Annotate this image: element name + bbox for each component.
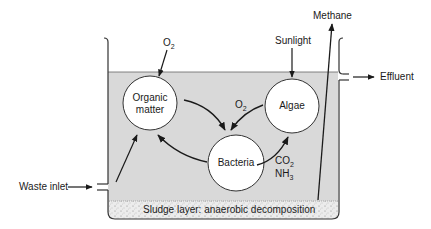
sunlight-label: Sunlight [275, 35, 311, 46]
organic-matter-label-line1: Organic [132, 92, 167, 103]
oxygen-input: O2 [159, 37, 175, 76]
methane-label: Methane [313, 10, 352, 21]
waste-inlet: Waste inlet [19, 181, 92, 192]
node-algae: Algae [265, 79, 319, 133]
bacteria-label: Bacteria [218, 157, 255, 168]
sunlight-input: Sunlight [275, 35, 311, 77]
effluent: Effluent [353, 71, 414, 82]
sludge-layer-label: Sludge layer: anaerobic decomposition [143, 204, 315, 215]
oxygen-top-label: O2 [163, 37, 175, 50]
pond-diagram: Waste inlet Effluent Methane O2 Sunlight… [0, 0, 431, 229]
effluent-label: Effluent [380, 71, 414, 82]
node-bacteria: Bacteria [208, 135, 264, 191]
node-organic-matter: Organic matter [123, 76, 177, 130]
algae-label: Algae [279, 100, 305, 111]
waste-inlet-label: Waste inlet [19, 181, 68, 192]
organic-matter-label-line2: matter [136, 104, 165, 115]
